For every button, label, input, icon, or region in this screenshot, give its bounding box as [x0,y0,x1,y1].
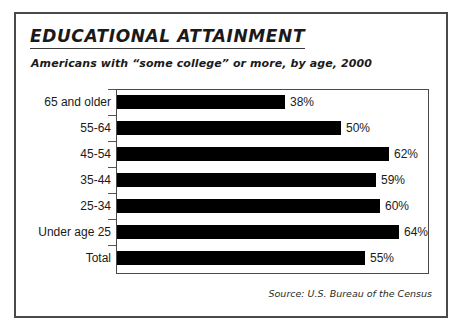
axis-tick [108,115,116,116]
bar-row: Under age 25 64% [16,219,450,245]
bar-row: 35-44 59% [16,167,450,193]
category-label: 65 and older [44,89,111,115]
bar-45-54 [117,147,389,161]
category-label: 35-44 [80,167,111,193]
category-label: 25-34 [80,193,111,219]
axis-tick [108,141,116,142]
bar-row: 55-64 50% [16,115,450,141]
bar-under-age-25 [117,225,399,239]
value-label: 62% [394,141,418,167]
value-label: 64% [404,219,428,245]
bar-35-44 [117,173,376,187]
category-label: Total [86,245,111,271]
bar-row: 65 and older 38% [16,89,450,115]
chart-subtitle: Americans with “some college” or more, b… [31,57,372,70]
bar-65-and-older [117,95,285,109]
value-label: 50% [346,115,370,141]
value-label: 60% [385,193,409,219]
bar-25-34 [117,199,380,213]
value-label: 38% [290,89,314,115]
bar-rows: 65 and older 38% 55-64 50% 45-54 62% 35-… [16,89,450,274]
axis-tick [108,193,116,194]
axis-tick [108,167,116,168]
bar-total [117,251,365,265]
bar-row: 25-34 60% [16,193,450,219]
bar-row: Total 55% [16,245,450,271]
axis-tick [108,89,116,90]
bar-55-64 [117,121,341,135]
source-note: Source: U.S. Bureau of the Census [269,288,432,299]
value-label: 59% [381,167,405,193]
page-title: EDUCATIONAL ATTAINMENT [30,26,305,49]
category-label: 55-64 [80,115,111,141]
axis-tick [108,219,116,220]
value-label: 55% [370,245,394,271]
category-label: Under age 25 [38,219,111,245]
bar-row: 45-54 62% [16,141,450,167]
chart-figure: EDUCATIONAL ATTAINMENT Americans with “s… [14,12,448,318]
axis-tick [108,245,116,246]
category-label: 45-54 [80,141,111,167]
title-container: EDUCATIONAL ATTAINMENT [30,26,305,49]
